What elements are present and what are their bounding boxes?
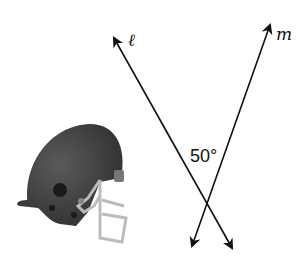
angle-label: 50° bbox=[190, 146, 217, 167]
line-l bbox=[114, 38, 232, 248]
line-m bbox=[192, 25, 270, 246]
diagram-canvas bbox=[0, 0, 307, 260]
line-m-label: m bbox=[276, 24, 292, 44]
line-l-label: ℓ bbox=[128, 30, 135, 51]
football-helmet-icon bbox=[17, 124, 126, 242]
